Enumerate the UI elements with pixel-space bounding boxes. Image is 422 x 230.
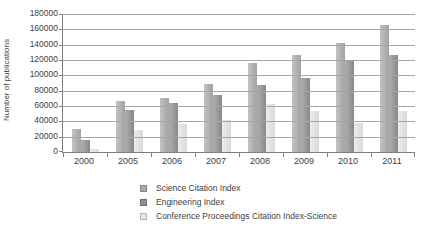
y-tick-label: 0 [53,147,58,156]
gridline [63,91,415,92]
y-tick-label: 100000 [30,70,58,79]
x-tick-mark [414,152,415,157]
x-axis-labels: 20002005200620072008200920102011 [62,156,414,166]
y-tick-label: 120000 [30,55,58,64]
bar [257,85,266,152]
y-tick-mark [59,60,63,61]
legend-item: Science Citation Index [140,181,337,195]
y-tick-label: 20000 [34,132,58,141]
bar [134,130,143,152]
bar [169,103,178,152]
y-tick-mark [59,106,63,107]
bar [90,149,99,152]
legend-item: Engineering Index [140,195,337,209]
y-tick-label: 60000 [34,101,58,110]
y-tick-mark [59,75,63,76]
x-category-label: 2008 [238,156,282,166]
y-tick-label: 40000 [34,116,58,125]
y-tick-mark [59,45,63,46]
bar [248,63,257,152]
bar [116,101,125,152]
y-tick-mark [59,121,63,122]
gridline [63,75,415,76]
bar-groups [63,14,415,152]
legend-label: Science Citation Index [156,183,241,193]
bar [81,140,90,152]
bar [301,78,310,152]
legend-swatch [140,213,147,220]
y-tick-mark [59,29,63,30]
gridline [63,137,415,138]
x-category-label: 2010 [326,156,370,166]
y-tick-mark [59,91,63,92]
gridline [63,29,415,30]
y-axis-tick-labels: 0200004000060000800001000001200001400001… [16,14,58,152]
x-category-label: 2009 [282,156,326,166]
bar-group-2000 [63,129,107,152]
legend-item: Conference Proceedings Citation Index-Sc… [140,209,337,223]
legend: Science Citation IndexEngineering IndexC… [140,181,337,223]
bar [178,124,187,152]
legend-swatch [140,185,147,192]
y-axis-title: Number of publications [2,11,14,149]
gridline [63,60,415,61]
x-category-label: 2000 [62,156,106,166]
chart-figure: Number of publications 02000040000600008… [0,0,422,230]
legend-label: Engineering Index [156,197,225,207]
y-tick-mark [59,14,63,15]
plot-area [62,14,415,153]
bar-group-2005 [107,101,151,152]
bar [204,84,213,152]
bar [398,111,407,152]
plot-wrap: 0200004000060000800001000001200001400001… [62,14,415,153]
y-tick-mark [59,137,63,138]
gridline [63,14,415,15]
gridline [63,45,415,46]
y-tick-label: 180000 [30,9,58,18]
legend-swatch [140,199,147,206]
bar [213,95,222,152]
y-tick-label: 140000 [30,40,58,49]
x-category-label: 2011 [370,156,414,166]
bar [266,104,275,152]
x-category-label: 2006 [150,156,194,166]
bar [125,110,134,152]
gridline [63,106,415,107]
x-category-label: 2007 [194,156,238,166]
bar-group-2007 [195,84,239,152]
bar [72,129,81,152]
x-category-label: 2005 [106,156,150,166]
bar [310,111,319,152]
y-tick-label: 80000 [34,86,58,95]
gridline [63,121,415,122]
y-tick-label: 160000 [30,24,58,33]
legend-label: Conference Proceedings Citation Index-Sc… [156,211,337,221]
bar-group-2008 [239,63,283,152]
